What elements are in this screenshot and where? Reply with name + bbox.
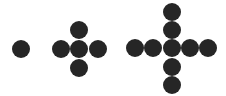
dot-icon bbox=[52, 40, 70, 58]
dot-icon bbox=[70, 59, 88, 77]
dot-icon bbox=[163, 3, 181, 21]
dot-icon bbox=[163, 39, 181, 57]
dot-icon bbox=[181, 39, 199, 57]
dot-icon bbox=[144, 39, 162, 57]
dot-icon bbox=[70, 21, 88, 39]
dot-icon bbox=[126, 39, 144, 57]
dot-icon bbox=[163, 21, 181, 39]
dot-icon bbox=[163, 76, 181, 94]
pattern-sequence bbox=[0, 0, 226, 96]
dot-icon bbox=[89, 40, 107, 58]
dot-icon bbox=[199, 39, 217, 57]
dot-icon bbox=[12, 40, 30, 58]
dot-icon bbox=[163, 58, 181, 76]
dot-icon bbox=[70, 40, 88, 58]
